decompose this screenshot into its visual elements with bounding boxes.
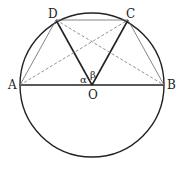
label-d: D (48, 7, 58, 21)
label-c: C (126, 7, 135, 21)
geometry-diagram: A B C D O α β (0, 0, 181, 173)
label-b: B (167, 78, 176, 92)
label-o: O (88, 88, 98, 102)
label-a: A (7, 78, 17, 92)
chord-cb (128, 20, 164, 85)
angle-alpha: α (80, 74, 87, 85)
segment-oc (92, 20, 128, 85)
chord-ad (20, 20, 56, 85)
angle-beta: β (90, 69, 96, 80)
